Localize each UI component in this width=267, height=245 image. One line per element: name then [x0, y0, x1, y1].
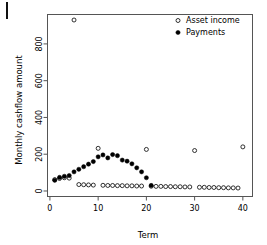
legend-label-payments: Payments	[186, 28, 225, 37]
data-points	[53, 18, 245, 190]
y-axis-ticks: 0200400600800	[35, 36, 48, 193]
data-point-asset-income	[91, 183, 95, 187]
data-point-asset-income	[101, 183, 105, 187]
data-point-payments	[120, 158, 124, 162]
y-tick-label: 200	[35, 147, 44, 162]
data-point-payments	[53, 178, 57, 182]
data-point-asset-income	[140, 184, 144, 188]
y-tick-label: 400	[35, 110, 44, 125]
data-point-asset-income	[222, 186, 226, 190]
data-point-payments	[139, 170, 143, 174]
y-tick-label: 600	[35, 73, 44, 88]
legend-label-asset-income: Asset income	[186, 16, 240, 25]
data-point-asset-income	[241, 145, 245, 149]
data-point-payments	[82, 165, 86, 169]
data-point-asset-income	[115, 184, 119, 188]
x-tick-label: 10	[93, 204, 103, 213]
data-point-asset-income	[178, 185, 182, 189]
data-point-asset-income	[135, 184, 139, 188]
data-point-payments	[111, 152, 115, 156]
data-point-asset-income	[130, 184, 134, 188]
data-point-asset-income	[87, 183, 91, 187]
data-point-asset-income	[193, 149, 197, 153]
data-point-asset-income	[202, 185, 206, 189]
x-tick-label: 20	[141, 204, 151, 213]
data-point-payments	[115, 154, 119, 158]
data-point-payments	[101, 153, 105, 157]
data-point-asset-income	[159, 184, 163, 188]
data-point-payments	[106, 156, 110, 160]
data-point-asset-income	[106, 183, 110, 187]
data-point-asset-income	[212, 185, 216, 189]
scatter-plot: 010203040 0200400600800 Term Monthly cas…	[0, 0, 267, 245]
data-point-payments	[149, 183, 153, 187]
data-point-asset-income	[188, 185, 192, 189]
x-tick-label: 40	[238, 204, 248, 213]
edge-artifact	[6, 2, 8, 19]
data-point-asset-income	[72, 18, 76, 22]
data-point-payments	[77, 167, 81, 171]
data-point-payments	[62, 174, 66, 178]
x-tick-label: 0	[47, 204, 52, 213]
chart-figure: 010203040 0200400600800 Term Monthly cas…	[0, 0, 267, 245]
data-point-payments	[86, 162, 90, 166]
data-point-asset-income	[125, 184, 129, 188]
data-point-asset-income	[169, 185, 173, 189]
data-point-asset-income	[82, 183, 86, 187]
data-point-payments	[91, 159, 95, 163]
data-point-asset-income	[231, 186, 235, 190]
data-point-payments	[72, 170, 76, 174]
data-point-payments	[130, 162, 134, 166]
x-axis-ticks: 010203040	[47, 197, 248, 213]
data-point-payments	[57, 175, 61, 179]
data-point-asset-income	[96, 146, 100, 150]
data-point-asset-income	[111, 183, 115, 187]
data-point-asset-income	[226, 186, 230, 190]
y-tick-label: 800	[35, 36, 44, 51]
data-point-payments	[125, 159, 129, 163]
x-axis-label: Term	[137, 230, 159, 240]
data-point-asset-income	[164, 185, 168, 189]
data-point-asset-income	[173, 185, 177, 189]
data-point-asset-income	[144, 147, 148, 151]
data-point-asset-income	[183, 185, 187, 189]
y-tick-label: 0	[35, 188, 44, 193]
data-point-asset-income	[154, 184, 158, 188]
legend-marker-payments	[176, 30, 180, 34]
x-tick-label: 30	[190, 204, 200, 213]
data-point-asset-income	[77, 183, 81, 187]
y-axis-label: Monthly cashflow amount	[14, 55, 24, 165]
data-point-asset-income	[197, 185, 201, 189]
data-point-asset-income	[120, 184, 124, 188]
data-point-payments	[67, 173, 71, 177]
legend-marker-asset-income	[176, 19, 180, 23]
chart-legend: Asset incomePayments	[176, 16, 240, 37]
data-point-payments	[135, 166, 139, 170]
data-point-payments	[144, 176, 148, 180]
data-point-asset-income	[236, 186, 240, 190]
data-point-asset-income	[207, 185, 211, 189]
data-point-payments	[96, 155, 100, 159]
data-point-asset-income	[217, 186, 221, 190]
